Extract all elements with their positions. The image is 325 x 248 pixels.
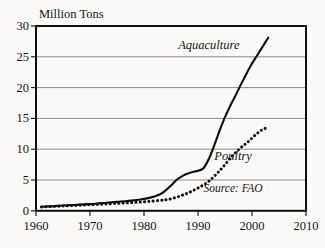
y-tick-label-0: 0 <box>23 204 29 218</box>
fisheries-production-chart: Million Tons 30 25 20 15 10 5 0 1960 197… <box>0 0 325 248</box>
y-tick-label-20: 20 <box>17 81 30 95</box>
x-tick-label-1970: 1970 <box>78 219 103 233</box>
y-axis-title: Million Tons <box>39 7 104 21</box>
source-note: Source: FAO <box>204 182 264 194</box>
x-tick-label-1960: 1960 <box>24 219 49 233</box>
y-tick-label-15: 15 <box>17 111 30 125</box>
y-tick-label-10: 10 <box>17 142 30 156</box>
aquaculture-label: Aquaculture <box>177 38 240 52</box>
y-tick-label-30: 30 <box>17 19 30 33</box>
x-tick-label-1990: 1990 <box>186 219 211 233</box>
x-tick-label-2010: 2010 <box>294 219 319 233</box>
x-tick-label-1980: 1980 <box>132 219 157 233</box>
y-tick-label-25: 25 <box>17 50 30 64</box>
y-tick-label-5: 5 <box>23 173 29 187</box>
chart-page: Million Tons 30 25 20 15 10 5 0 1960 197… <box>0 0 325 248</box>
x-tick-label-2000: 2000 <box>240 219 265 233</box>
poultry-label: Poultry <box>213 149 252 163</box>
